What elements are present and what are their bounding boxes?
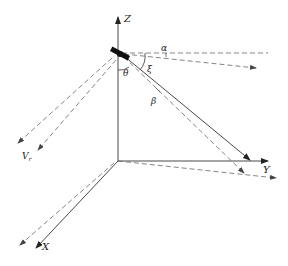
satellite-geometry-diagram: Z Y X α ξ θ β Vr bbox=[0, 0, 288, 266]
xi-direction-arrow bbox=[124, 54, 256, 68]
z-axis-label: Z bbox=[123, 13, 132, 24]
beta-marker bbox=[156, 88, 160, 92]
velocity-dashed-outer bbox=[18, 58, 112, 143]
x-axis bbox=[36, 161, 118, 248]
xi-label: ξ bbox=[147, 64, 153, 74]
ground-projection-line bbox=[118, 161, 276, 178]
satellite-icon bbox=[110, 47, 130, 61]
velocity-label: Vr bbox=[22, 151, 33, 162]
beam-line bbox=[124, 56, 250, 160]
y-axis-label: Y bbox=[263, 164, 271, 175]
beam-projection-dashed bbox=[124, 57, 244, 173]
x-axis-parallel-dashed bbox=[20, 163, 114, 245]
x-axis-label: X bbox=[41, 241, 50, 252]
alpha-label: α bbox=[161, 43, 167, 53]
coordinate-axes bbox=[36, 17, 268, 248]
beta-label: β bbox=[150, 96, 156, 106]
theta-label: θ bbox=[123, 68, 129, 78]
velocity-vector bbox=[38, 60, 116, 150]
